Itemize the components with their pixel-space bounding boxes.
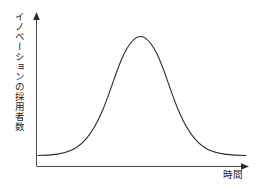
y-axis-arrowhead-icon	[33, 12, 40, 20]
y-axis-label: イノベーションの採用者数	[12, 12, 25, 132]
innovation-adoption-curve-figure: イノベーションの採用者数 時間	[0, 0, 268, 191]
chart-canvas	[0, 0, 268, 191]
bell-curve-path	[38, 37, 246, 156]
x-axis-label: 時間	[223, 170, 243, 180]
